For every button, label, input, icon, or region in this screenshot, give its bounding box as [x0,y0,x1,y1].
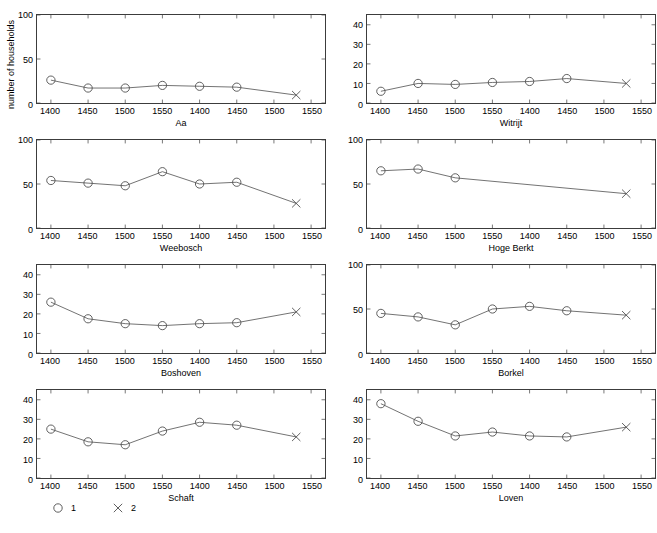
panel-title: Boshoven [36,368,326,378]
x-tick-label: 1400 [190,231,210,241]
plot-area: 050100 [366,264,656,354]
x-tick-label: 1450 [77,481,97,491]
x-tick-label: 1450 [407,356,427,366]
y-tick-label: 0 [358,351,363,360]
x-tick-label: 1500 [595,231,615,241]
panel-title: Witrijt [366,118,656,128]
x-tick-label: 1550 [302,106,322,116]
data-line [51,422,296,444]
y-tick-label: 50 [353,306,363,315]
panel-title: Weebosch [36,243,326,253]
x-tick-label: 1400 [520,231,540,241]
y-tick-label: 0 [28,226,33,235]
y-tick-label: 0 [28,476,33,485]
x-tick-label: 1400 [40,231,60,241]
panel-title: Loven [366,493,656,503]
x-tick-label: 1400 [520,481,540,491]
x-tick-label: 1500 [445,356,465,366]
panel-borkel: 05010014001450150015501400145015001550Bo… [366,264,656,376]
x-tick-label: 1450 [227,356,247,366]
plot-area: 010203040 [36,264,326,354]
x-tick-label: 1400 [520,106,540,116]
x-tick-label: 1450 [407,106,427,116]
x-tick-label: 1450 [557,106,577,116]
y-tick-label: 50 [23,181,33,190]
x-tick-label: 1500 [115,356,135,366]
x-tick-label: 1400 [40,481,60,491]
x-tick-label: 1500 [595,356,615,366]
x-tick-label: 1550 [632,231,652,241]
panel-schaft: 0102030401400145015001550140014501500155… [36,389,326,501]
panel-title: Hoge Berkt [366,243,656,253]
x-tick-label: 1500 [265,231,285,241]
panel-witrijt: 0102030401400145015001550140014501500155… [366,14,656,126]
panel-loven: 0102030401400145015001550140014501500155… [366,389,656,501]
panel-title: Aa [36,118,326,128]
legend-entry-2: 2 [112,502,136,514]
y-tick-label: 20 [23,311,33,320]
x-tick-label: 1500 [265,106,285,116]
x-tick-label: 1400 [520,356,540,366]
x-tick-label: 1500 [445,481,465,491]
x-tick-label: 1450 [77,356,97,366]
legend-entry-1: 1 [52,502,76,514]
legend-label: 2 [131,504,136,513]
panel-weebosch: 05010014001450150015501400145015001550We… [36,139,326,251]
x-tick-label: 1550 [482,231,502,241]
x-tick-label: 1500 [115,106,135,116]
x-tick-label: 1500 [595,481,615,491]
x-tick-label: 1500 [115,481,135,491]
y-tick-label: 10 [23,331,33,340]
plot-area: 050100 [36,14,326,104]
x-tick-label: 1550 [482,481,502,491]
y-tick-label: 50 [23,56,33,65]
y-tick-label: 40 [353,21,363,30]
y-tick-label: 100 [18,11,33,20]
plot-area: 010203040 [366,14,656,104]
x-tick-label: 1550 [302,231,322,241]
plot-canvas [367,390,655,478]
x-tick-label: 1450 [557,481,577,491]
x-tick-label: 1400 [40,106,60,116]
x-tick-label: 1550 [302,481,322,491]
data-line [381,404,626,437]
plot-canvas [367,140,655,228]
data-line [51,80,296,95]
figure-small-multiples: number of households 0501001400145015001… [0,0,657,533]
y-tick-label: 40 [23,271,33,280]
x-tick-label: 1500 [115,231,135,241]
data-line [381,306,626,324]
y-tick-label: 10 [353,456,363,465]
x-tick-label: 1550 [152,356,172,366]
x-tick-label: 1450 [407,231,427,241]
x-tick-label: 1450 [557,231,577,241]
x-tick-label: 1550 [632,106,652,116]
x-tick-label: 1450 [227,481,247,491]
plot-area: 010203040 [36,389,326,479]
y-tick-label: 30 [23,291,33,300]
data-line [51,302,296,325]
cross-marker-icon [292,199,300,207]
x-tick-label: 1550 [302,356,322,366]
panel-grid: 05010014001450150015501400145015001550Aa… [0,0,657,500]
y-tick-label: 0 [358,226,363,235]
cross-marker-icon [112,502,124,514]
panel-aa: 05010014001450150015501400145015001550Aa [36,14,326,126]
y-tick-label: 30 [23,416,33,425]
x-tick-label: 1550 [632,481,652,491]
circle-marker-icon [54,504,62,512]
x-tick-label: 1450 [227,231,247,241]
y-tick-label: 0 [358,476,363,485]
x-tick-label: 1400 [370,481,390,491]
x-tick-label: 1400 [190,106,210,116]
legend-label: 1 [71,504,76,513]
x-tick-label: 1450 [77,231,97,241]
y-tick-label: 10 [23,456,33,465]
y-tick-label: 40 [23,396,33,405]
y-tick-label: 100 [348,136,363,145]
figure-legend: 12 [52,500,172,516]
figure-caption [36,526,636,533]
plot-canvas [37,390,325,478]
plot-area: 050100 [36,139,326,229]
x-tick-label: 1450 [77,106,97,116]
